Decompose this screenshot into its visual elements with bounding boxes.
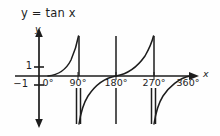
- plot-canvas: [0, 0, 220, 136]
- y-axis-label: y: [35, 24, 41, 34]
- tan-branch-180-270: [116, 36, 154, 76]
- y-tick-label-1: 1: [6, 61, 32, 71]
- tan-branch-0-90: [48, 36, 79, 76]
- tan-graph-figure: y = tan x y x 1 −1 0° 90° 180° 270° 360°: [0, 0, 220, 136]
- figure-title: y = tan x: [21, 8, 76, 20]
- y-tick-label-neg1: −1: [2, 79, 28, 89]
- x-tick-label-270: 270°: [138, 78, 170, 88]
- x-tick-label-0: 0°: [36, 78, 60, 88]
- x-tick-label-360: 360°: [172, 78, 204, 88]
- x-tick-label-180: 180°: [100, 78, 132, 88]
- y-axis-arrow-down: [35, 119, 43, 128]
- x-tick-label-90: 90°: [64, 78, 92, 88]
